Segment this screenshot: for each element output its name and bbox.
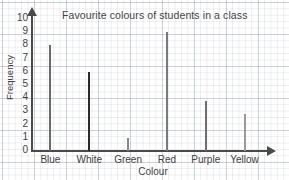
plot-area (31, 19, 264, 151)
x-tick-label-red: Red (158, 154, 176, 165)
bar-purple (205, 101, 207, 151)
y-tick-label: 2 (10, 119, 28, 129)
y-tick-label: 1 (10, 132, 28, 142)
y-axis-title: Frequency (4, 43, 15, 113)
bar-white (88, 72, 90, 151)
x-tick-label-green: Green (114, 154, 142, 165)
x-tick-label-blue: Blue (40, 154, 60, 165)
x-axis-arrow-icon (267, 146, 276, 156)
y-tick-label: 0 (10, 145, 28, 155)
bar-yellow (244, 114, 246, 151)
y-tick-label: 9 (10, 26, 28, 36)
x-tick-label-yellow: Yellow (230, 154, 259, 165)
y-tick-label: 10 (10, 13, 28, 23)
x-axis-title: Colour (138, 166, 167, 177)
bar-green (127, 138, 129, 151)
x-tick-label-purple: Purple (191, 154, 220, 165)
bar-red (166, 32, 168, 151)
x-tick-label-white: White (76, 154, 102, 165)
bar-blue (49, 45, 51, 151)
bar-chart: Favourite colours of students in a class… (0, 0, 289, 180)
